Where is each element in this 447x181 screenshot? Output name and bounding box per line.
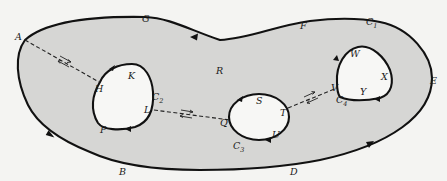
label-t: T [280,107,287,118]
label-c2-sub: 2 [158,97,163,105]
label-c3-sub: 3 [240,146,244,154]
label-f: F [299,20,307,31]
label-w: W [350,48,361,59]
label-a: A [14,31,22,42]
label-q: Q [220,117,228,128]
label-s: S [256,95,263,106]
label-b: B [118,166,126,177]
label-c4-sub: 4 [342,100,347,108]
label-c1-sub: 1 [373,22,377,30]
label-d: D [289,166,298,177]
label-v: V [331,82,339,93]
label-u: U [272,129,281,140]
label-x: X [380,71,389,82]
label-p: P [99,124,107,135]
label-r: R [215,65,223,76]
label-h: H [94,83,104,94]
label-k: K [127,70,136,81]
label-g: G [142,13,150,24]
label-e: E [429,75,437,86]
label-l: L [143,104,150,115]
region-diagram: A G F C1 E D B R H K C2 L P Q S T U C3 V… [0,0,447,181]
